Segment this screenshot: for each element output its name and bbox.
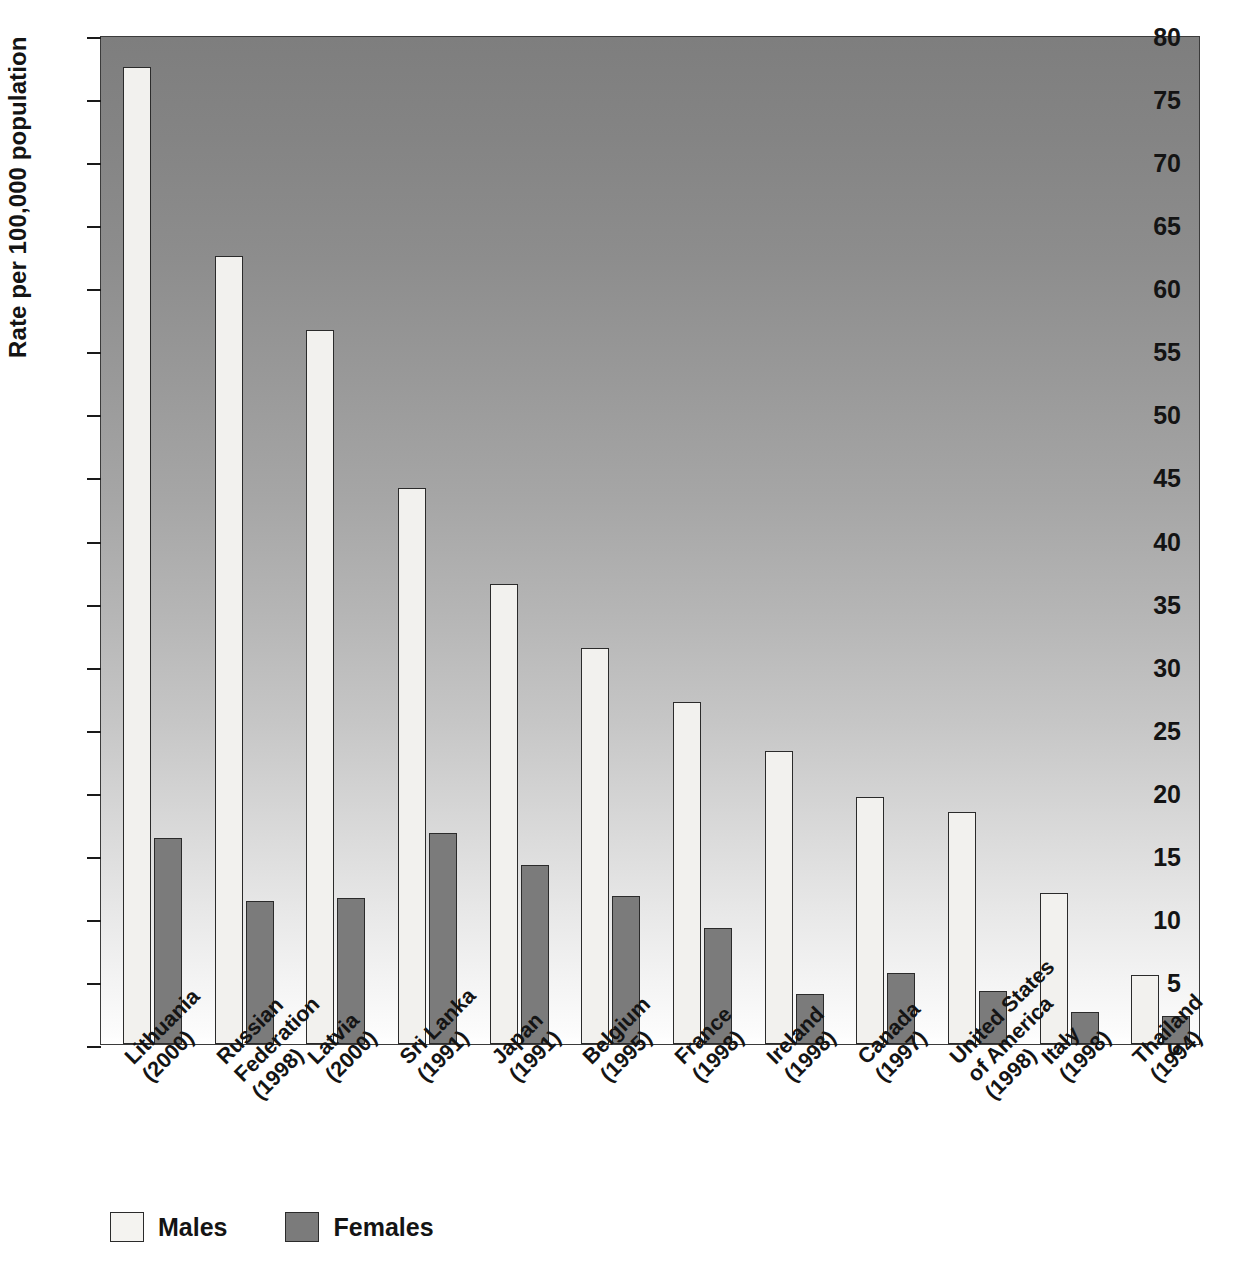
bar-group — [926, 37, 1018, 1044]
bar-males-8 — [856, 797, 884, 1044]
plot-area: 05101520253035404550556065707580 — [100, 36, 1200, 1045]
legend-item-males[interactable]: Males — [110, 1212, 227, 1242]
legend-label: Males — [158, 1213, 227, 1242]
bar-males-2 — [306, 330, 334, 1044]
y-tick-mark — [87, 289, 101, 291]
y-tick-mark — [87, 100, 101, 102]
bar-males-3 — [398, 488, 426, 1044]
bar-group — [834, 37, 926, 1044]
y-tick-mark — [87, 163, 101, 165]
bar-group — [651, 37, 743, 1044]
male-swatch — [110, 1212, 144, 1242]
bar-group — [284, 37, 376, 1044]
bar-group — [468, 37, 560, 1044]
legend-item-females[interactable]: Females — [285, 1212, 433, 1242]
y-axis-title: Rate per 100,000 population — [4, 0, 32, 358]
suicide-rates-bar-chart: Rate per 100,000 population 051015202530… — [0, 0, 1235, 1265]
y-tick-mark — [87, 920, 101, 922]
bar-males-9 — [948, 812, 976, 1044]
bar-males-6 — [673, 702, 701, 1044]
y-tick-mark — [87, 478, 101, 480]
y-tick-mark — [87, 352, 101, 354]
y-tick-mark — [87, 542, 101, 544]
bar-males-0 — [123, 67, 151, 1044]
bar-group — [743, 37, 835, 1044]
bar-group — [559, 37, 651, 1044]
y-tick-mark — [87, 857, 101, 859]
bar-males-7 — [765, 751, 793, 1044]
legend-label: Females — [333, 1213, 433, 1242]
y-tick-mark — [87, 794, 101, 796]
female-swatch — [285, 1212, 319, 1242]
y-tick-mark — [87, 415, 101, 417]
bar-males-4 — [490, 584, 518, 1044]
y-tick-mark — [87, 226, 101, 228]
bar-group — [101, 37, 193, 1044]
bar-group — [193, 37, 285, 1044]
y-tick-mark — [87, 668, 101, 670]
bar-group — [1109, 37, 1201, 1044]
bar-males-1 — [215, 256, 243, 1044]
y-tick-mark — [87, 37, 101, 39]
y-tick-mark — [87, 605, 101, 607]
bar-group — [376, 37, 468, 1044]
chart-legend: MalesFemales — [110, 1212, 434, 1242]
y-tick-mark — [87, 731, 101, 733]
y-tick-mark — [87, 1046, 101, 1048]
bar-males-5 — [581, 648, 609, 1044]
bar-group — [1018, 37, 1110, 1044]
y-tick-mark — [87, 983, 101, 985]
